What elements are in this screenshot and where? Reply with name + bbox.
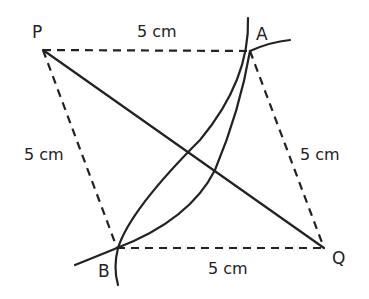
rhombus-construction-diagram: P A B Q 5 cm 5 cm 5 cm 5 cm — [0, 0, 369, 299]
point-label-p: P — [32, 22, 42, 42]
length-label-pa: 5 cm — [137, 22, 177, 41]
length-label-bq: 5 cm — [208, 259, 248, 278]
side-pa — [43, 50, 250, 51]
arc-through-a-b-right — [75, 40, 290, 265]
length-label-aq: 5 cm — [300, 145, 340, 164]
diagonal-pq — [43, 50, 324, 248]
point-label-b: B — [98, 261, 110, 281]
arc-through-a-b-left — [116, 18, 249, 285]
length-label-pb: 5 cm — [24, 145, 64, 164]
point-label-q: Q — [332, 248, 345, 268]
point-label-a: A — [256, 24, 268, 44]
